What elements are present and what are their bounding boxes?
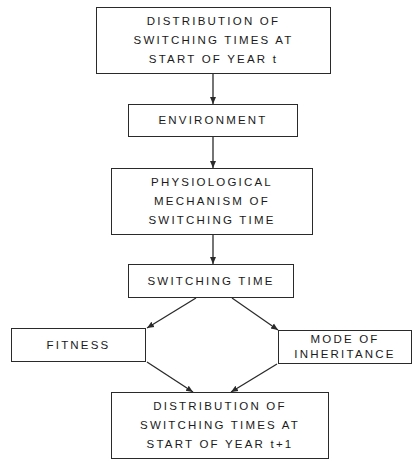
node-text-line: DISTRIBUTION OF bbox=[147, 12, 280, 31]
arrow-inheritance-to-end bbox=[231, 364, 277, 392]
node-switching-time: SWITCHING TIME bbox=[128, 264, 294, 298]
node-text-line: SWITCHING TIME bbox=[147, 272, 274, 291]
node-text-line: SWITCHING TIMES AT bbox=[134, 31, 294, 50]
node-text-line: SWITCHING TIMES AT bbox=[140, 416, 300, 435]
node-text-line: PHYSIOLOGICAL bbox=[151, 173, 273, 192]
node-text-line: MODE OF bbox=[310, 332, 379, 347]
node-text-line: START OF YEAR t+1 bbox=[147, 435, 294, 454]
node-end-distribution: DISTRIBUTION OF SWITCHING TIMES AT START… bbox=[111, 392, 329, 459]
arrow-fitness-to-end bbox=[147, 362, 193, 392]
node-text-line: FITNESS bbox=[47, 336, 111, 355]
node-environment: ENVIRONMENT bbox=[128, 104, 298, 137]
arrow-switching-time-to-inheritance bbox=[232, 298, 278, 330]
node-start-distribution: DISTRIBUTION OF SWITCHING TIMES AT START… bbox=[96, 7, 331, 74]
arrow-switching-time-to-fitness bbox=[147, 298, 196, 328]
node-text-line: SWITCHING TIME bbox=[148, 211, 275, 230]
node-physiological-mechanism: PHYSIOLOGICAL MECHANISM OF SWITCHING TIM… bbox=[111, 168, 313, 235]
node-mode-of-inheritance: MODE OF INHERITANCE bbox=[278, 330, 412, 364]
node-text-line: INHERITANCE bbox=[294, 347, 395, 362]
node-text-line: MECHANISM OF bbox=[154, 192, 270, 211]
node-text-line: ENVIRONMENT bbox=[158, 111, 267, 130]
node-text-line: DISTRIBUTION OF bbox=[153, 397, 286, 416]
node-text-line: START OF YEAR t bbox=[149, 50, 278, 69]
node-fitness: FITNESS bbox=[11, 328, 146, 362]
